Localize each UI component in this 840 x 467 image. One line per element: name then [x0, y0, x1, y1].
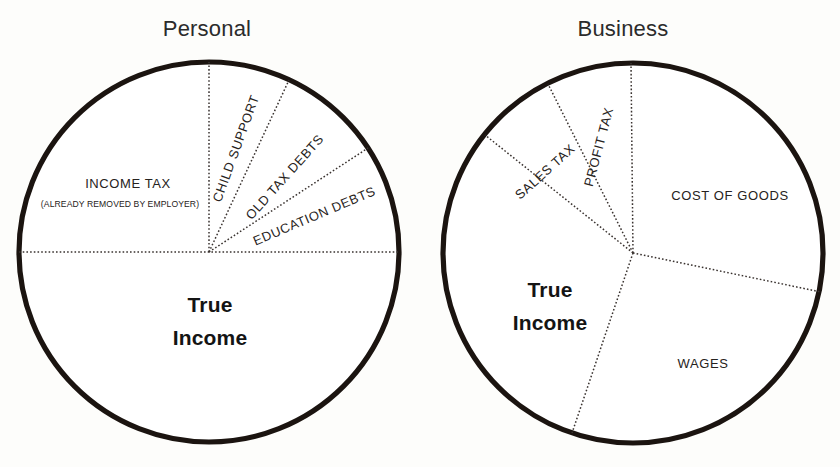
- figure-canvas: Personal INCOME TAX (ALREADY REMOVED BY …: [0, 0, 840, 467]
- segment-label-true-income-line2: Income: [173, 326, 248, 349]
- pie-svg-personal: INCOME TAX (ALREADY REMOVED BY EMPLOYER)…: [0, 0, 420, 467]
- segment-label-true-income-line2: Income: [513, 311, 588, 334]
- segment-note-income-tax: (ALREADY REMOVED BY EMPLOYER): [41, 199, 199, 209]
- segment-label-wages: WAGES: [678, 356, 729, 371]
- pie-chart-personal: Personal INCOME TAX (ALREADY REMOVED BY …: [0, 0, 420, 467]
- segment-label-true-income-line1: True: [527, 278, 572, 301]
- segment-label-cost-of-goods: COST OF GOODS: [671, 188, 788, 203]
- pie-chart-business: Business SALES TAX PROFIT TAX COST OF GO…: [420, 0, 840, 467]
- segment-label-income-tax: INCOME TAX: [85, 176, 171, 191]
- pie-svg-business: SALES TAX PROFIT TAX COST OF GOODS WAGES…: [420, 0, 840, 467]
- segment-label-true-income-line1: True: [187, 293, 232, 316]
